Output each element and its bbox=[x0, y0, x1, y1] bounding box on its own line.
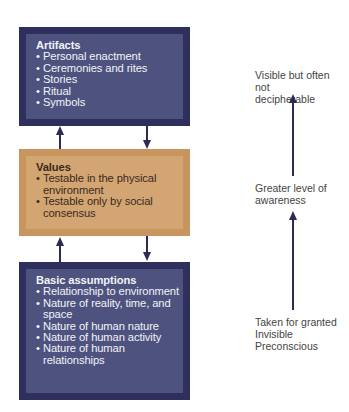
preconscious-text: Preconscious bbox=[255, 340, 337, 352]
basic-assumptions-list: Relationship to environment Nature of re… bbox=[36, 286, 179, 366]
artifacts-list: Personal enactment Ceremonies and rites … bbox=[36, 51, 179, 108]
arrowhead-up-icon bbox=[289, 211, 297, 220]
arrowhead-down-icon bbox=[143, 252, 151, 261]
list-item: Symbols bbox=[36, 97, 179, 108]
values-box: Values Testable in the physical environm… bbox=[19, 149, 190, 236]
values-list: Testable in the physical environment Tes… bbox=[36, 173, 179, 219]
down-arrow-values-to-assumptions bbox=[146, 236, 148, 253]
taken-for-granted-text: Taken for granted bbox=[255, 316, 337, 328]
awareness-lower-arrow bbox=[292, 218, 294, 310]
up-arrow-values-to-artifacts bbox=[59, 133, 61, 149]
artifacts-panel: Artifacts Personal enactment Ceremonies … bbox=[26, 34, 183, 119]
list-item: Stories bbox=[36, 74, 179, 85]
list-item: Testable only by social consensus bbox=[36, 196, 179, 219]
awareness-middle-label: Greater level of awareness bbox=[255, 182, 330, 206]
list-item: Testable in the physical environment bbox=[36, 173, 179, 196]
arrowhead-down-icon bbox=[143, 140, 151, 149]
arrowhead-up-icon bbox=[56, 126, 64, 135]
list-item: Nature of reality, time, and space bbox=[36, 298, 179, 321]
list-item: Nature of human relationships bbox=[36, 343, 179, 366]
invisible-text: Invisible bbox=[255, 328, 337, 340]
awareness-upper-arrow bbox=[292, 100, 294, 176]
basic-assumptions-panel: Basic assumptions Relationship to enviro… bbox=[26, 269, 183, 393]
down-arrow-artifacts-to-values bbox=[146, 126, 148, 141]
arrowhead-up-icon bbox=[289, 94, 297, 103]
arrowhead-up-icon bbox=[56, 237, 64, 246]
artifacts-box: Artifacts Personal enactment Ceremonies … bbox=[19, 27, 190, 126]
up-arrow-assumptions-to-values bbox=[59, 244, 61, 262]
awareness-bottom-label: Taken for granted Invisible Preconscious bbox=[255, 316, 337, 352]
basic-assumptions-box: Basic assumptions Relationship to enviro… bbox=[19, 262, 190, 400]
values-panel: Values Testable in the physical environm… bbox=[26, 156, 183, 229]
